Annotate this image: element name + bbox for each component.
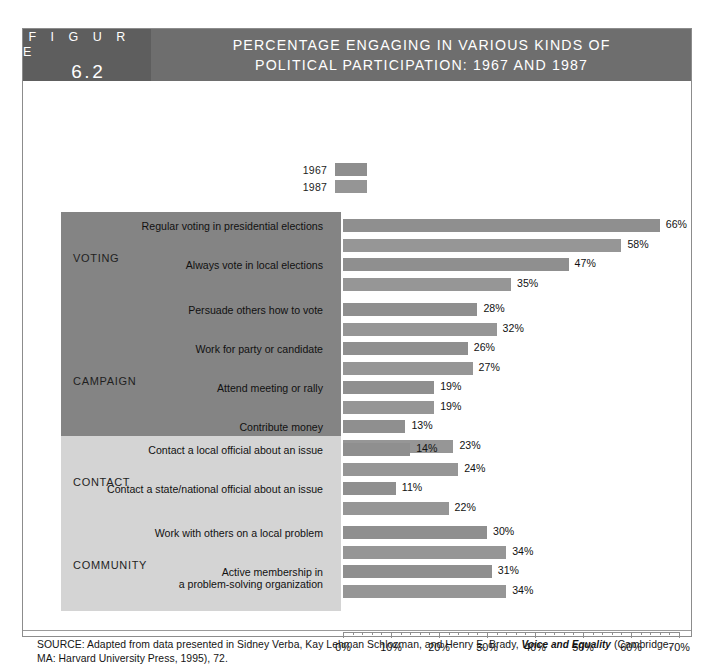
bar-value-label: 27% — [479, 361, 500, 373]
bar-1987 — [343, 502, 449, 515]
axis-tick-minor — [506, 632, 507, 635]
legend-label-1967: 1967 — [291, 164, 327, 176]
category-label-line: Persuade others how to vote — [188, 304, 323, 316]
group-name-label: VOTING — [61, 252, 119, 264]
bar-1967 — [343, 565, 492, 578]
axis-tick-minor — [353, 632, 354, 635]
axis-tick-minor — [362, 632, 363, 635]
axis-tick-minor — [554, 632, 555, 635]
bar-1987 — [343, 585, 506, 598]
bar-value-label: 47% — [575, 257, 596, 269]
figure-number-label: 6.2 — [69, 61, 105, 83]
legend-label-1987: 1987 — [291, 181, 327, 193]
bar-1987 — [343, 239, 621, 252]
bar-value-label: 34% — [512, 584, 533, 596]
figure-badge: F I G U R E 6.2 — [23, 29, 151, 81]
bar-row: 19% — [343, 401, 712, 414]
chart-legend: 1967 1987 — [291, 163, 411, 197]
axis-tick-minor — [449, 632, 450, 635]
axis-tick-minor — [593, 632, 594, 635]
axis-tick-minor — [410, 632, 411, 635]
bar-row: 19% — [343, 381, 712, 394]
source-italic-title: Voice and Equality — [522, 639, 611, 650]
category-label-line: Contact a local official about an issue — [148, 444, 323, 456]
axis-tick-minor — [641, 632, 642, 635]
bar-value-label: 30% — [493, 525, 514, 537]
figure-title-line-1: PERCENTAGE ENGAGING IN VARIOUS KINDS OF — [232, 35, 611, 55]
axis-tick-minor — [612, 632, 613, 635]
source-note: SOURCE: Adapted from data presented in S… — [37, 638, 677, 666]
bar-value-label: 19% — [440, 380, 461, 392]
bar-1987 — [343, 323, 497, 336]
axis-tick-minor — [545, 632, 546, 635]
bar-row: 13% — [343, 420, 712, 433]
bar-row: 28% — [343, 303, 712, 316]
category-label-line: Contribute money — [239, 421, 323, 433]
figure-frame: F I G U R E 6.2 PERCENTAGE ENGAGING IN V… — [22, 28, 692, 637]
bar-row: 58% — [343, 239, 712, 252]
bar-row: 32% — [343, 323, 712, 336]
figure-title: PERCENTAGE ENGAGING IN VARIOUS KINDS OF … — [151, 29, 691, 81]
bar-value-label: 13% — [411, 419, 432, 431]
bar-1967 — [343, 258, 569, 271]
category-label: Active membership ina problem-solving or… — [179, 566, 323, 590]
bar-row: 24% — [343, 463, 712, 476]
bar-value-label: 24% — [464, 462, 485, 474]
bar-1987 — [343, 546, 506, 559]
axis-tick-minor — [525, 632, 526, 635]
bar-1967 — [343, 303, 477, 316]
bar-value-label: 58% — [627, 238, 648, 250]
category-label-line: Work with others on a local problem — [155, 527, 323, 539]
bar-row: 11% — [343, 482, 712, 495]
axis-tick-minor — [458, 632, 459, 635]
axis-tick-minor — [621, 632, 622, 635]
category-label: Contribute money — [239, 421, 323, 433]
axis-tick-minor — [468, 632, 469, 635]
bar-1987 — [343, 362, 473, 375]
axis-tick-minor — [564, 632, 565, 635]
bar-row: 66% — [343, 219, 712, 232]
chart-group-community: COMMUNITYWork with others on a local pro… — [61, 519, 712, 611]
bar-row: 47% — [343, 258, 712, 271]
bar-1967 — [343, 381, 434, 394]
axis-tick-minor — [602, 632, 603, 635]
bar-1987 — [343, 401, 434, 414]
axis-tick-minor — [381, 632, 382, 635]
axis-tick-minor — [372, 632, 373, 635]
legend-swatch-1967 — [335, 163, 367, 176]
bar-row: 14% — [343, 443, 712, 456]
axis-tick-minor — [477, 632, 478, 635]
category-label: Work for party or candidate — [195, 343, 323, 355]
category-label: Regular voting in presidential elections — [142, 220, 323, 232]
bar-row: 31% — [343, 565, 712, 578]
figure-header: F I G U R E 6.2 PERCENTAGE ENGAGING IN V… — [23, 29, 691, 81]
axis-tick-minor — [516, 632, 517, 635]
axis-tick-minor — [669, 632, 670, 635]
category-label-line: a problem-solving organization — [179, 578, 323, 590]
axis-tick-major — [679, 632, 680, 638]
figure-title-line-2: POLITICAL PARTICIPATION: 1967 AND 1987 — [254, 55, 588, 75]
bar-row: 34% — [343, 546, 712, 559]
axis-tick-minor — [660, 632, 661, 635]
bar-1967 — [343, 420, 405, 433]
legend-item-1987: 1987 — [291, 180, 411, 193]
x-axis-line — [343, 632, 679, 633]
legend-item-1967: 1967 — [291, 163, 411, 176]
category-label: Persuade others how to vote — [188, 304, 323, 316]
bar-1967 — [343, 526, 487, 539]
bar-value-label: 22% — [455, 501, 476, 513]
legend-swatch-1987 — [335, 180, 367, 193]
category-label-line: Attend meeting or rally — [217, 382, 323, 394]
bar-row: 35% — [343, 278, 712, 291]
bar-row: 26% — [343, 342, 712, 355]
category-label-line: Work for party or candidate — [195, 343, 323, 355]
source-divider — [23, 630, 691, 631]
category-label: Contact a local official about an issue — [148, 444, 323, 456]
group-name-label: COMMUNITY — [61, 559, 147, 571]
bar-value-label: 28% — [483, 302, 504, 314]
bar-1967 — [343, 443, 410, 456]
bar-value-label: 26% — [474, 341, 495, 353]
category-label-line: Active membership in — [179, 566, 323, 578]
bar-value-label: 35% — [517, 277, 538, 289]
axis-tick-minor — [650, 632, 651, 635]
